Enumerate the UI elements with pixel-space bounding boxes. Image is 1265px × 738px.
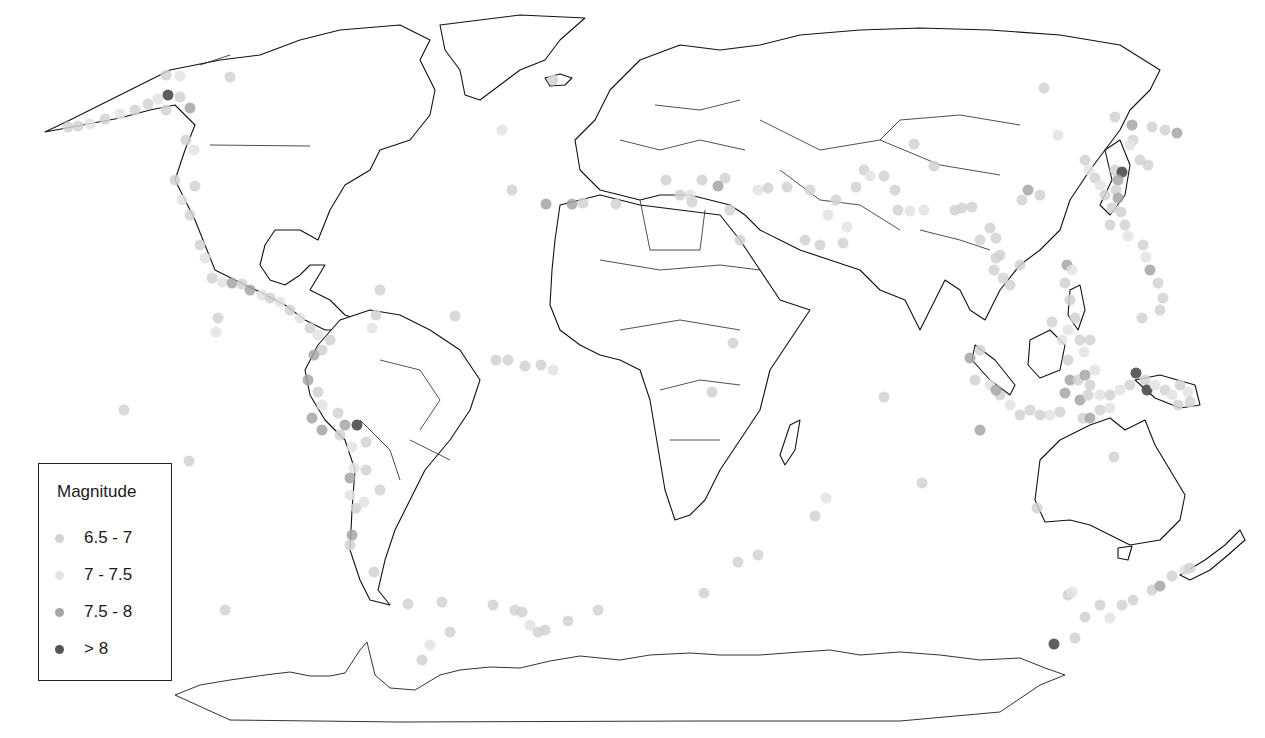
earthquake-point [533,627,544,638]
earthquake-point [697,175,708,186]
earthquake-point [1145,265,1156,276]
earthquake-point [100,114,111,125]
earthquake-point [445,627,456,638]
earthquake-point [1032,503,1043,514]
earthquake-point [917,478,928,489]
earthquake-point [161,105,172,116]
earthquake-point [1131,368,1142,379]
earthquake-point [1105,613,1116,624]
earthquake-point [831,195,842,206]
earthquake-point [161,70,172,81]
earthquake-point [115,109,126,120]
legend-title: Magnitude [57,482,136,502]
earthquake-point [317,425,328,436]
earthquake-point [207,273,218,284]
earthquake-point [1090,365,1101,376]
earthquake-point [720,173,731,184]
legend-item-7-5-8: 7.5 - 8 [55,600,132,624]
earthquake-point [1053,130,1064,141]
earthquake-point [661,175,672,186]
earthquake-point [325,335,336,346]
earthquake-point [1147,122,1158,133]
earthquake-point [1115,385,1126,396]
earthquake-point [1173,400,1184,411]
earthquake-point [1063,355,1074,366]
earthquake-point [359,497,370,508]
earthquake-point [810,511,821,522]
earthquake-point [1172,128,1183,139]
legend-label: 6.5 - 7 [84,528,132,548]
earthquake-point [842,222,853,233]
earthquake-point [1153,278,1164,289]
earthquake-point [303,375,314,386]
earthquake-point [265,293,276,304]
earthquake-point [1127,120,1138,131]
earthquake-point [211,327,222,338]
earthquake-point [220,605,231,616]
earthquake-point [536,360,547,371]
earthquake-point [195,240,206,251]
earthquake-point [1017,195,1028,206]
earthquake-point [175,71,186,82]
earthquake-point [989,265,1000,276]
earthquake-point [1123,231,1134,242]
earthquake-point [1080,155,1091,166]
earthquake-point [1035,190,1046,201]
earthquake-point [1105,390,1116,401]
legend-dot-icon [55,645,64,654]
earthquake-point [307,413,318,424]
australia-outline [1035,418,1185,545]
earthquake-point [245,285,256,296]
earthquake-point [1045,410,1056,421]
earthquake-point [170,175,181,186]
legend-item-7-7-5: 7 - 7.5 [55,563,132,587]
earthquake-point [1155,581,1166,592]
earthquake-point [1095,405,1106,416]
legend-label: 7 - 7.5 [84,565,132,585]
earthquake-point [503,355,514,366]
earthquake-point [1005,400,1016,411]
earthquake-point [965,353,976,364]
earthquake-point [1080,612,1091,623]
earthquake-point [578,198,589,209]
earthquake-point [225,72,236,83]
earthquake-point [1083,390,1094,401]
earthquake-point [143,99,154,110]
earthquake-point [1167,571,1178,582]
earthquake-point [593,605,604,616]
earthquake-point [967,202,978,213]
legend-dot-icon [55,571,64,580]
earthquake-point [1095,600,1106,611]
legend-dot-icon [55,608,64,617]
earthquake-point [815,240,826,251]
earthquake-point [375,285,386,296]
tasmania-outline [1118,546,1132,560]
earthquake-point [919,205,930,216]
earthquake-point [347,442,358,453]
earthquake-point [497,125,508,136]
earthquake-point [517,607,528,618]
earthquake-point [851,182,862,193]
earthquake-point [507,185,518,196]
earthquake-point [1039,83,1050,94]
earthquake-point [821,493,832,504]
earthquake-point [1055,407,1066,418]
earthquake-point [1117,600,1128,611]
legend-item-6-5-7: 6.5 - 7 [55,526,132,550]
earthquake-point [213,313,224,324]
earthquake-point [1047,317,1058,328]
earthquake-point [893,205,904,216]
legend-label: > 8 [84,639,108,659]
earthquake-point [1109,452,1120,463]
earthquake-point [805,185,816,196]
earthquake-point [190,181,201,192]
earthquake-point [707,387,718,398]
earthquake-point [488,600,499,611]
earthquake-point [450,311,461,322]
africa-outline [550,195,810,520]
earthquake-point [295,313,306,324]
earthquake-point [1100,190,1111,201]
legend-label: 7.5 - 8 [84,602,132,622]
earthquake-point [437,597,448,608]
earthquake-point [991,233,1002,244]
